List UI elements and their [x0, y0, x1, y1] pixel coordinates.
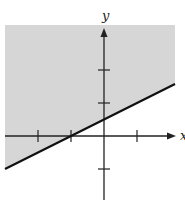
x-axis-label: x [180, 128, 185, 143]
inequality-graph: y x [0, 0, 185, 206]
x-axis-arrow-icon [167, 133, 176, 140]
y-axis-label: y [101, 8, 110, 23]
